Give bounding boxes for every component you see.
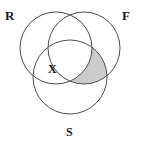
set-label-f: F [122,9,130,22]
set-label-s: S [66,126,73,138]
set-label-r: R [5,9,14,22]
region-label-x: X [48,63,57,75]
venn-diagram-svg [0,0,141,144]
venn-diagram-figure: R F X S [0,0,141,144]
